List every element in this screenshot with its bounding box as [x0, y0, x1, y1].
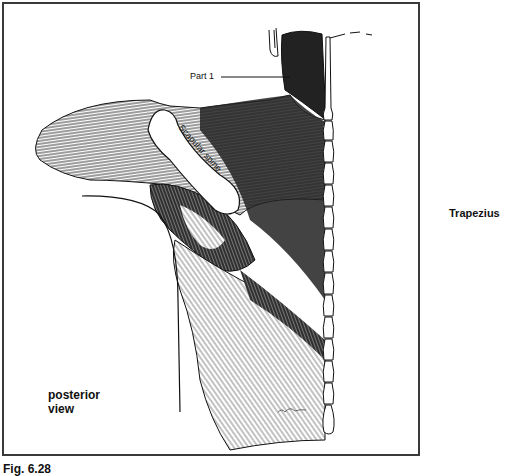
neck-outline-hook: [269, 28, 278, 56]
lower-trapezius: [173, 240, 325, 450]
figure-caption: Fig. 6.28: [3, 462, 51, 476]
figure-title: Trapezius: [449, 207, 500, 219]
arm-outline: [82, 196, 180, 412]
part1-label: Part 1: [190, 71, 214, 81]
view-label-line1: posterior: [48, 388, 100, 402]
view-label: posterior view: [48, 388, 100, 416]
view-label-line2: view: [48, 402, 100, 416]
dashed-contour: [330, 32, 372, 38]
